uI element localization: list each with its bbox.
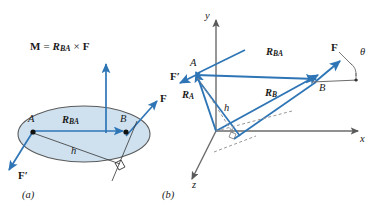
moment-equation-m: M [30,40,40,52]
panel-b-moment-arm-label: h [224,103,229,114]
moment-equation: M=RBA×F [30,41,89,53]
line-of-action-b [196,50,245,74]
panel-b-x-axis-label: x [360,134,365,145]
panel-b-r-b-subscript: B [272,90,277,99]
force-f-arrow-b [315,61,340,82]
moment-equation-r: R [53,40,60,52]
point-a-dot [30,129,35,134]
r-b-vector-arrow [216,75,318,131]
panel-b-r-b-symbol: R [265,87,272,98]
panel-b-r-a-label: RA [182,90,194,101]
panel-a-r-ba-label: RBA [62,115,79,126]
panel-a-force-f-label: F [160,93,167,104]
panel-a-point-a-label: A [28,114,34,125]
moment-equation-f: F [83,40,90,52]
panel-a-point-b-label: B [120,114,126,125]
panel-a-graphics [0,0,382,210]
theta-vertex-dot [354,78,357,81]
panel-b-point-b-label: B [319,83,325,94]
panel-b-r-b-label: RB [265,88,277,99]
panel-b-caption: (b) [162,190,174,201]
moment-equation-equals: = [43,40,49,52]
panel-b-point-a-label: A [190,58,196,69]
panel-b-theta-label: θ [360,47,365,58]
moment-equation-r-sub: BA [60,44,71,53]
panel-b-force-f-prime-label: F′ [170,71,180,82]
panel-b-r-a-subscript: A [189,92,194,101]
panel-a-r-ba-symbol: R [62,114,69,125]
theta-arc [350,63,356,76]
panel-b-z-axis-label: z [192,180,196,191]
panel-b-r-ba-subscript: BA [273,49,283,58]
panel-b-r-a-symbol: R [182,89,189,100]
figure-container: M=RBA×F A B RBA F F′ h (a) y x z A B RA … [0,0,382,210]
panel-b-r-ba-label: RBA [266,47,283,58]
panel-a-caption: (a) [22,190,34,201]
panel-b-r-ba-symbol: R [266,46,273,57]
line-of-action-lower-b [196,77,240,136]
moment-equation-cross: × [74,40,80,52]
point-b-dot [123,129,128,134]
base-projection-dashed-b [216,111,292,131]
panel-b-y-axis-label: y [205,11,210,22]
disk-ellipse [18,106,150,162]
panel-b-force-f-label: F [331,42,338,53]
panel-a-r-ba-subscript: BA [69,117,79,126]
panel-a-moment-arm-label: h [71,146,76,157]
z-axis-line [192,131,216,179]
r-ba-vector-arrow-b [196,75,316,79]
panel-a-force-f-prime-label: F′ [18,170,28,181]
